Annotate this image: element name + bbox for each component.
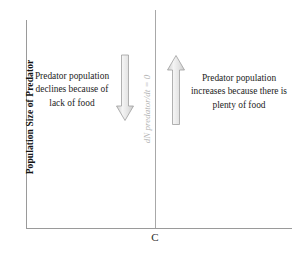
- left-annotation-text: Predator population declines because of …: [32, 70, 112, 110]
- arrow-down-icon: [115, 54, 135, 122]
- x-axis-label: C: [128, 231, 182, 243]
- isocline-equation-label: dN predator/dt = 0: [142, 54, 152, 164]
- arrow-up-icon: [166, 54, 186, 126]
- decline-arrow: [115, 54, 135, 126]
- predator-isocline-figure: Population Size of Predator C: [0, 0, 296, 253]
- increase-arrow: [166, 54, 186, 130]
- isocline-vertical-line: [155, 10, 156, 228]
- y-axis-label: Population Size of Predator: [25, 27, 35, 207]
- x-axis-line: [26, 228, 292, 229]
- right-annotation-text: Predator population increases because th…: [190, 72, 288, 112]
